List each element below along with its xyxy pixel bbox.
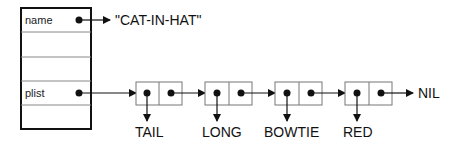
name-value: "CAT-IN-HAT" <box>115 13 201 27</box>
car-value-2: LONG <box>202 125 242 139</box>
cons-cell-4 <box>345 82 413 121</box>
field-label-plist: plist <box>25 88 45 99</box>
car-value-4: RED <box>343 125 373 139</box>
cons-cell-1 <box>136 82 205 121</box>
car-value-1: TAIL <box>135 125 164 139</box>
car-value-3: BOWTIE <box>264 125 319 139</box>
field-label-name: name <box>25 15 53 26</box>
diagram: name plist "CAT-IN-HAT" TAIL LONG BOWTIE… <box>0 0 460 147</box>
record-box <box>21 8 91 129</box>
name-pointer-arrow <box>76 17 111 24</box>
cons-cell-3 <box>275 82 345 121</box>
cons-cell-2 <box>205 82 275 121</box>
nil-terminator: NIL <box>418 86 440 100</box>
